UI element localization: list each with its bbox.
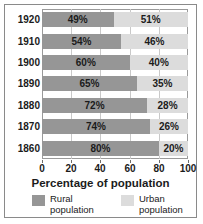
bar-row: 72%28% [42,98,188,113]
legend-swatch-rural [32,195,45,206]
bar-value-label-urban: 28% [147,98,188,113]
legend-item-urban: Urban population [121,194,183,215]
legend-label-rural: Rural population [50,194,94,215]
x-tick-label-80: 80 [144,163,174,174]
x-tick-label-40: 40 [85,163,115,174]
x-tick-label-60: 60 [115,163,145,174]
legend-label-urban-line1: Urban [139,194,183,205]
bar-value-label-rural: 49% [42,12,114,27]
bar-value-label-urban: 46% [121,34,188,49]
bar-value-label-rural: 72% [42,98,147,113]
bar-value-label-urban: 26% [150,119,188,134]
x-tick-label-100: 100 [173,163,203,174]
x-axis: 020406080100 [42,160,188,176]
chart-legend: Rural population Urban population [4,194,197,218]
chart-figure: 1920191019001890188018701860 49%51%54%46… [0,0,203,224]
legend-item-rural: Rural population [32,194,94,215]
y-tick-label-1910: 1910 [4,34,40,49]
bar-value-label-rural: 65% [42,76,137,91]
plot-area: 49%51%54%46%60%40%65%35%72%28%74%26%80%2… [42,9,188,159]
y-tick-label-1880: 1880 [4,98,40,113]
y-axis-year-labels: 1920191019001890188018701860 [0,9,40,159]
bar-row: 60%40% [42,55,188,70]
bar-row: 54%46% [42,34,188,49]
y-tick-label-1890: 1890 [4,76,40,91]
bar-value-label-rural: 80% [42,141,159,156]
legend-label-urban: Urban population [139,194,183,215]
legend-label-rural-line1: Rural [50,194,94,205]
bar-row: 74%26% [42,119,188,134]
y-tick-label-1870: 1870 [4,119,40,134]
bar-row: 49%51% [42,12,188,27]
bar-value-label-urban: 40% [130,55,188,70]
y-tick-label-1900: 1900 [4,55,40,70]
legend-label-rural-line2: population [50,205,94,216]
bar-row: 80%20% [42,141,188,156]
y-tick-label-1920: 1920 [4,12,40,27]
bar-value-label-urban: 20% [159,141,188,156]
legend-label-urban-line2: population [139,205,183,216]
legend-swatch-urban [121,195,134,206]
bar-value-label-rural: 60% [42,55,130,70]
bar-value-label-rural: 54% [42,34,121,49]
bar-row: 65%35% [42,76,188,91]
x-tick-label-0: 0 [27,163,57,174]
x-axis-title: Percentage of population [4,177,197,189]
bar-value-label-urban: 51% [114,12,188,27]
y-tick-label-1860: 1860 [4,141,40,156]
bar-value-label-rural: 74% [42,119,150,134]
x-tick-label-20: 20 [56,163,86,174]
bar-value-label-urban: 35% [137,76,188,91]
